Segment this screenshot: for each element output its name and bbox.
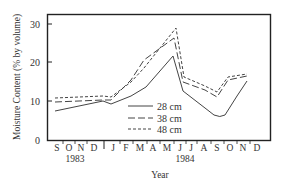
- series-48cm: [55, 28, 247, 98]
- legend-label-48cm: 48 cm: [157, 124, 182, 135]
- year-1984-label: 1984: [176, 154, 195, 164]
- month-labels: S O N D J F M A M J J A S O N D 1983 198…: [54, 143, 260, 180]
- series-38cm: [55, 38, 247, 102]
- svg-text:F: F: [123, 143, 128, 153]
- svg-text:D: D: [254, 143, 261, 153]
- legend-label-38cm: 38 cm: [157, 113, 182, 124]
- x-axis-title: Year: [151, 170, 169, 180]
- svg-text:J: J: [178, 143, 182, 153]
- svg-text:A: A: [201, 143, 208, 153]
- series-28cm: [55, 56, 247, 117]
- y-tick-10: 10: [30, 96, 40, 107]
- svg-text:N: N: [240, 143, 247, 153]
- series-lines: [55, 28, 247, 117]
- svg-text:J: J: [189, 143, 193, 153]
- y-tick-30: 30: [30, 19, 40, 30]
- legend-label-28cm: 28 cm: [157, 101, 182, 112]
- svg-text:M: M: [136, 143, 145, 153]
- moisture-chart: 0 10 20 30 Moisture Content (% by volume…: [0, 0, 284, 186]
- y-tick-0: 0: [35, 135, 40, 146]
- y-axis-title: Moisture Content (% by volume): [12, 14, 23, 140]
- svg-text:A: A: [150, 143, 157, 153]
- svg-text:N: N: [78, 143, 85, 153]
- svg-text:O: O: [66, 143, 73, 153]
- y-axis: 0 10 20 30 Moisture Content (% by volume…: [12, 14, 52, 146]
- legend: 28 cm 38 cm 48 cm: [128, 101, 182, 135]
- svg-text:D: D: [91, 143, 98, 153]
- y-tick-20: 20: [30, 57, 40, 68]
- svg-text:S: S: [54, 143, 59, 153]
- svg-text:J: J: [111, 143, 115, 153]
- year-1983-label: 1983: [66, 154, 85, 164]
- svg-text:M: M: [163, 143, 172, 153]
- svg-text:O: O: [227, 143, 234, 153]
- svg-text:S: S: [214, 143, 219, 153]
